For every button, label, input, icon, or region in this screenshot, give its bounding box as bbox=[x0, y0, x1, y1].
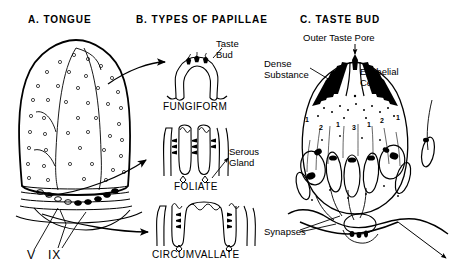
panel-connector-arrows bbox=[42, 62, 165, 232]
epithelial-cells-label-line2: Cells bbox=[360, 77, 381, 88]
cell-number: 1 bbox=[367, 121, 371, 128]
dense-substance-label: Dense Substance bbox=[264, 58, 309, 80]
cell-number: 3 bbox=[352, 124, 356, 131]
tongue-median-sulcus bbox=[56, 48, 76, 190]
interstitial-stipple bbox=[311, 135, 399, 201]
serous-gland-label-line2: Gland bbox=[229, 157, 254, 168]
tongue-base-band-4 bbox=[20, 206, 132, 210]
circumvallate-caption: CIRCUMVALLATE bbox=[152, 249, 240, 260]
tongue-illustration bbox=[16, 40, 142, 250]
tongue-fold-upper-left bbox=[36, 112, 56, 132]
tongue-root-lower-outline bbox=[34, 208, 130, 230]
serous-gland-leader-line bbox=[212, 158, 228, 178]
dense-substance-label-line2: Substance bbox=[264, 69, 309, 80]
cell-number: 1 bbox=[396, 114, 400, 121]
foliate-papilla-drawing bbox=[164, 125, 229, 183]
taste-bud-label: Taste Bud bbox=[216, 38, 239, 60]
serous-gland-label: Serous Gland bbox=[229, 146, 259, 168]
fungiform-caption: FUNGIFORM bbox=[163, 101, 227, 112]
cell-number: 2 bbox=[319, 124, 323, 131]
cell-number: 1 bbox=[305, 116, 309, 123]
serous-gland-label-line1: Serous bbox=[229, 146, 259, 157]
cell-number: 2 bbox=[380, 117, 384, 124]
fungiform-papillae-dots bbox=[26, 53, 125, 181]
nerve-label-v: V bbox=[27, 248, 36, 262]
synaptic-vesicles bbox=[350, 231, 368, 238]
arrow-to-foliate bbox=[46, 160, 146, 196]
foliate-caption: FOLIATE bbox=[174, 181, 218, 192]
epithelial-cells-label-line1: Epithelial bbox=[360, 66, 399, 77]
epithelial-cells-leader-line bbox=[427, 100, 432, 150]
cell-number: 1 bbox=[336, 121, 340, 128]
outer-epithelial-cell-nucleus bbox=[423, 138, 429, 142]
epithelial-cells-label: Epithelial Cells bbox=[360, 66, 399, 88]
taste-anatomy-figure: A. TONGUE B. TYPES OF PAPILLAE C. TASTE … bbox=[0, 0, 456, 274]
arrow-to-fungiform bbox=[108, 62, 165, 84]
panel-b-heading: B. TYPES OF PAPILLAE bbox=[136, 14, 268, 25]
dense-substance-label-line1: Dense bbox=[264, 58, 291, 69]
nerve-leader-lines bbox=[34, 208, 86, 250]
tongue-lateral-contour-right bbox=[84, 48, 101, 190]
circumvallate-papilla-drawing bbox=[157, 202, 256, 252]
taste-bud-label-line1: Taste bbox=[216, 38, 239, 49]
circumvallate-papillae-row bbox=[37, 189, 119, 206]
synapses-label: Synapses bbox=[264, 226, 306, 237]
tongue-base-band-1 bbox=[22, 186, 128, 189]
taste-bud-label-line2: Bud bbox=[216, 49, 233, 60]
dense-substance-leader-line bbox=[310, 68, 330, 80]
cell-nuclei bbox=[306, 146, 400, 180]
pore-stipple bbox=[317, 95, 395, 119]
outer-taste-pore-label: Outer Taste Pore bbox=[303, 32, 375, 43]
panel-c-heading: C. TASTE BUD bbox=[300, 14, 380, 25]
panel-a-heading: A. TONGUE bbox=[28, 14, 91, 25]
nerve-fibres bbox=[288, 210, 448, 234]
tongue-fold-lower-left bbox=[34, 150, 55, 166]
nerve-label-ix: IX bbox=[48, 248, 61, 262]
